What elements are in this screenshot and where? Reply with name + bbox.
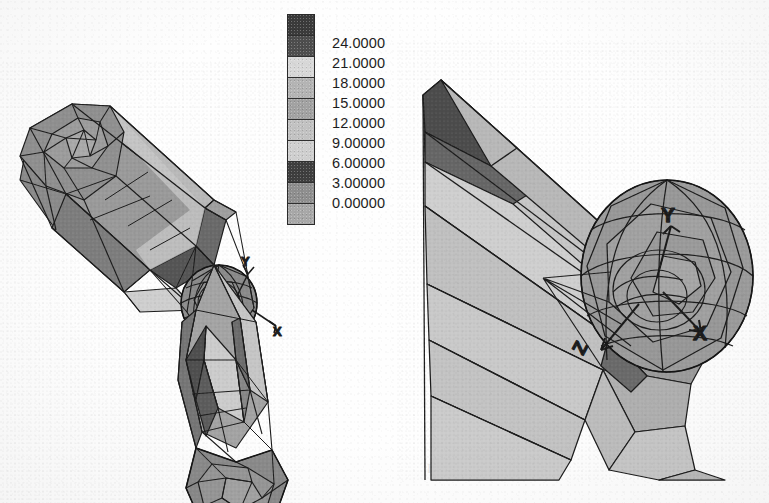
- linkage-mesh-overview: Y X Z: [20, 104, 288, 503]
- legend-band: [288, 57, 314, 78]
- axis-label-x: X: [273, 324, 282, 339]
- legend-color-bar: [287, 14, 315, 225]
- legend-band: [288, 141, 314, 162]
- legend-label: 3.00000: [332, 173, 385, 193]
- detail-view: Y X Z: [395, 40, 769, 480]
- legend-band: [288, 99, 314, 120]
- legend-band: [288, 204, 314, 224]
- legend-label-list: 24.000021.000018.000015.000012.00009.000…: [332, 33, 385, 213]
- legend-label: 0.00000: [332, 193, 385, 213]
- legend-label: 6.00000: [332, 153, 385, 173]
- lower-end-cap-overview: [186, 448, 288, 503]
- legend-band: [288, 15, 314, 36]
- contour-legend: 24.000021.000018.000015.000012.00009.000…: [287, 14, 315, 225]
- legend-label: 9.00000: [332, 133, 385, 153]
- figure-page: plotting of results contour stress eleme…: [0, 0, 769, 503]
- legend-band: [288, 36, 314, 57]
- axis-label-y: Y: [661, 203, 675, 226]
- legend-label: 18.0000: [332, 73, 385, 93]
- legend-band: [288, 183, 314, 204]
- linkage-mesh-detail: Y X Z: [423, 80, 753, 480]
- overview-view: Y X Z: [0, 60, 300, 503]
- legend-band: [288, 120, 314, 141]
- legend-label: 12.0000: [332, 113, 385, 133]
- legend-label: 21.0000: [332, 53, 385, 73]
- axis-label-y: Y: [241, 254, 250, 269]
- legend-band: [288, 78, 314, 99]
- axis-label-x: X: [693, 321, 707, 344]
- legend-label: 15.0000: [332, 93, 385, 113]
- legend-label: 24.0000: [332, 33, 385, 53]
- legend-band: [288, 162, 314, 183]
